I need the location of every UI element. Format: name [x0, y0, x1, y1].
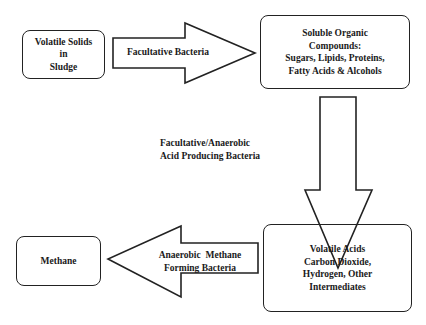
- node-line: Methane: [41, 255, 77, 268]
- edge-label-methane-forming: Anaerobic Methane Forming Bacteria: [146, 249, 254, 274]
- edge-line: Acid Producing Bacteria: [160, 150, 300, 163]
- edge-label-facultative: Facultative Bacteria: [118, 46, 218, 59]
- node-line: Soluble Organic: [302, 27, 368, 40]
- node-line: Fatty Acids & Alcohols: [288, 65, 381, 78]
- node-line: in: [60, 48, 68, 61]
- node-volatile-solids: Volatile Solids in Sludge: [22, 30, 105, 79]
- node-line: Sludge: [50, 61, 77, 74]
- node-line: Intermediates: [309, 281, 365, 294]
- node-line: Volatile Solids: [35, 36, 92, 49]
- node-methane: Methane: [16, 236, 101, 286]
- node-volatile-acids: Volatile Acids Carbon Dioxide, Hydrogen,…: [263, 224, 412, 312]
- node-line: Carbon Dioxide,: [304, 256, 371, 269]
- edge-line: Facultative/Anaerobic: [160, 137, 300, 150]
- edge-line: Facultative Bacteria: [118, 46, 218, 59]
- node-line: Compounds:: [309, 40, 361, 53]
- node-line: Volatile Acids: [310, 243, 365, 256]
- node-line: Sugars, Lipids, Proteins,: [285, 52, 384, 65]
- edge-line: Forming Bacteria: [146, 262, 254, 275]
- edge-line: Anaerobic Methane: [146, 249, 254, 262]
- node-soluble-organic: Soluble Organic Compounds: Sugars, Lipid…: [260, 15, 410, 89]
- edge-label-acid-producing: Facultative/Anaerobic Acid Producing Bac…: [160, 137, 300, 162]
- node-line: Hydrogen, Other: [303, 268, 373, 281]
